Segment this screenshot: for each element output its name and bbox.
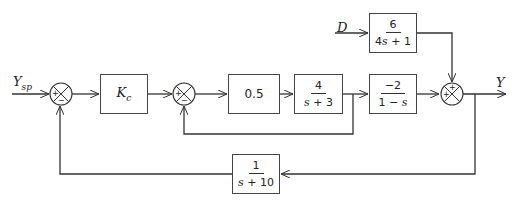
gain-block[interactable]: 0.5 <box>228 74 280 114</box>
plant1-transfer-function: 4 s + 3 <box>304 80 333 108</box>
disturbance-transfer-function: 6 4s + 1 <box>375 19 411 47</box>
controller-label: Kc <box>117 85 132 103</box>
gain-label: 0.5 <box>244 87 263 101</box>
plant2-block[interactable]: −2 1 − s <box>369 74 417 114</box>
summer3-left-plus-sign: + <box>443 91 450 99</box>
summer3-top-plus-sign: + <box>449 84 456 92</box>
summer2-minus-sign: − <box>181 97 188 105</box>
feedback-block[interactable]: 1 s + 10 <box>232 154 280 194</box>
disturbance-label: D <box>337 20 347 35</box>
controller-block[interactable]: Kc <box>100 74 148 114</box>
feedback-transfer-function: 1 s + 10 <box>238 160 274 188</box>
output-label: Y <box>496 75 505 90</box>
input-label: Ysp <box>13 74 32 92</box>
disturbance-block[interactable]: 6 4s + 1 <box>369 13 417 53</box>
plant2-transfer-function: −2 1 − s <box>379 80 408 108</box>
summer1-minus-sign: − <box>58 97 65 105</box>
plant1-block[interactable]: 4 s + 3 <box>294 74 343 114</box>
